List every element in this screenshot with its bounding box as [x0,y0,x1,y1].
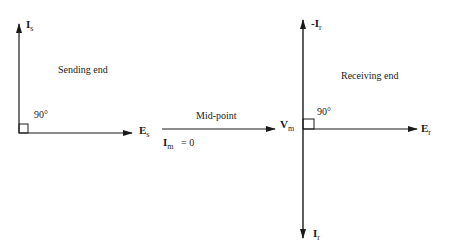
er-label: Er [421,122,431,137]
im-value: = 0 [181,137,194,148]
is-label: Is [26,18,33,33]
phasor-diagram [0,0,449,249]
vm-label: Vm [280,118,294,133]
receiving-end-phasors [303,20,417,238]
sending-angle-label: 90° [34,109,48,120]
receiving-end-title: Receiving end [341,70,398,81]
ir-label: Ir [313,227,320,242]
right-angle-mark-sending [19,124,28,133]
right-angle-mark-receiving [303,119,314,129]
im-label: Im [163,136,174,151]
midpoint-title: Mid-point [196,110,237,121]
sending-end-title: Sending end [58,64,108,75]
es-label: Es [139,124,149,139]
neg-ir-label: -Ir [311,17,322,32]
receiving-angle-label: 90° [317,106,331,117]
